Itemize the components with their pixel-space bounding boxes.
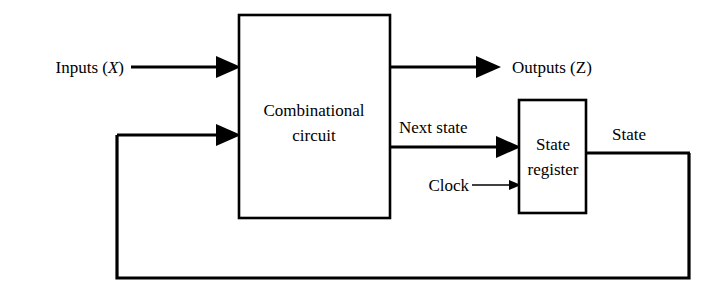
next-state-label: Next state [399,118,467,137]
arrowhead-outputs [476,56,501,78]
outputs-label-variable: Z [576,58,586,77]
inputs-label-close: ) [118,58,124,77]
outputs-label-text: Outputs ( [512,58,576,77]
arrowhead-feedback [216,124,241,146]
state-register-label-line2: register [528,160,579,179]
state-register-box [519,100,586,213]
clock-label: Clock [428,176,469,195]
state-label: State [612,125,646,144]
diagram-canvas: Combinational circuit State register Inp… [0,0,721,297]
sequential-circuit-diagram: Combinational circuit State register Inp… [0,0,721,297]
arrowhead-inputs [216,56,241,78]
outputs-label: Outputs (Z) [512,58,592,77]
state-register-label-line1: State [536,135,570,154]
wire-feedback-loop [117,135,689,278]
combinational-circuit-label-line1: Combinational [263,101,364,120]
inputs-label-text: Inputs ( [56,58,109,77]
outputs-label-close: ) [586,58,592,77]
inputs-label: Inputs (X) [56,58,124,77]
arrowhead-next-state [496,136,521,158]
inputs-label-variable: X [107,58,119,77]
combinational-circuit-label-line2: circuit [292,126,336,145]
